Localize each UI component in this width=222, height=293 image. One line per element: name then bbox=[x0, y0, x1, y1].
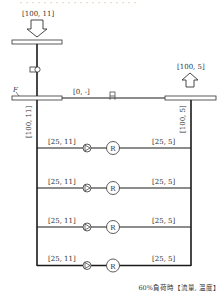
branch-return-label: [25, 5] bbox=[152, 138, 176, 146]
top-caption: ・・・・・・・・・・・・・・・・・・・・ bbox=[18, 0, 138, 6]
left-header-bar bbox=[12, 96, 62, 100]
bypass-valve-icon bbox=[110, 92, 115, 100]
pump-icon bbox=[83, 223, 91, 231]
branch-4: [25, 11] [25, 5] R bbox=[37, 255, 191, 272]
pump-icon bbox=[83, 262, 91, 270]
branch-3: [25, 11] [25, 5] R bbox=[37, 217, 191, 234]
branch-return-label: [25, 5] bbox=[152, 217, 176, 225]
control-valve-icon bbox=[30, 67, 40, 72]
pump-icon bbox=[83, 144, 91, 152]
branch-supply-label: [25, 11] bbox=[48, 255, 76, 263]
radiator-unit-icon: R bbox=[107, 259, 120, 272]
left-header-tag: F bbox=[12, 86, 19, 94]
svg-text:R: R bbox=[110, 185, 116, 193]
return-main-label: [100, 5] bbox=[179, 105, 187, 133]
branch-supply-label: [25, 11] bbox=[48, 138, 76, 146]
svg-text:R: R bbox=[110, 145, 116, 153]
inlet-arrow-down-icon bbox=[27, 20, 47, 37]
top-header-bar bbox=[12, 40, 62, 44]
right-header-bar bbox=[165, 96, 216, 100]
branch-supply-label: [25, 11] bbox=[48, 217, 76, 225]
branch-supply-label: [25, 11] bbox=[48, 178, 76, 186]
pump-icon bbox=[83, 184, 91, 192]
svg-text:R: R bbox=[110, 263, 116, 271]
piping-diagram: ・・・・・・・・・・・・・・・・・・・・ [100, 11] F [0, -] … bbox=[0, 0, 222, 293]
bypass-label: [0, -] bbox=[73, 88, 90, 96]
supply-inlet-label: [100, 11] bbox=[22, 10, 54, 18]
outlet-arrow-up-icon bbox=[182, 73, 198, 87]
return-outlet-label: [100, 5] bbox=[177, 63, 205, 71]
branch-2: [25, 11] [25, 5] R bbox=[37, 178, 191, 195]
radiator-unit-icon: R bbox=[107, 221, 120, 234]
branch-return-label: [25, 5] bbox=[152, 178, 176, 186]
branch-return-label: [25, 5] bbox=[152, 255, 176, 263]
footer-caption: 60%負荷時【流量, 温度】 bbox=[138, 283, 220, 292]
svg-text:R: R bbox=[110, 224, 116, 232]
radiator-unit-icon: R bbox=[107, 142, 120, 155]
branch-1: [25, 11] [25, 5] R bbox=[37, 138, 191, 155]
supply-main-label: [100, 11] bbox=[25, 106, 33, 138]
radiator-unit-icon: R bbox=[107, 182, 120, 195]
